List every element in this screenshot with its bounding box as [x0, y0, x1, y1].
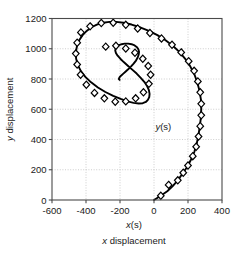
y-tick-label: 1000	[25, 43, 46, 54]
x-tick-label: -400	[76, 205, 95, 216]
x-tick-label: -600	[42, 205, 61, 216]
y-tick-label: 400	[31, 134, 47, 145]
y-tick-label: 200	[31, 164, 47, 175]
y-tick-label: 1200	[25, 13, 46, 24]
y-axis-title: y displacement	[4, 77, 15, 142]
curve-annotation: y(s)	[154, 121, 171, 132]
x-tick-label: 200	[180, 205, 196, 216]
y-tick-label: 600	[31, 104, 47, 115]
x-axis-title: x displacement	[101, 235, 166, 246]
y-axis: 020040060080010001200	[25, 13, 52, 206]
x-tick-label: 400	[214, 205, 230, 216]
y-tick-label: 0	[41, 195, 46, 206]
x-tick-label: -200	[110, 205, 129, 216]
y-tick-label: 800	[31, 74, 47, 85]
spiral-plot: -600-400-2000200400020040060080010001200…	[0, 0, 240, 258]
x-axis-symbol: x(s)	[125, 219, 142, 230]
chart-figure: -600-400-2000200400020040060080010001200…	[0, 0, 240, 258]
x-tick-label: 0	[151, 205, 156, 216]
x-axis: -600-400-2000200400	[42, 200, 229, 216]
